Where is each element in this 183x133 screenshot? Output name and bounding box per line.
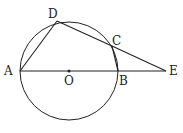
label-b: B: [119, 74, 128, 88]
segment-ad: [20, 21, 57, 71]
label-d: D: [48, 7, 58, 21]
segment-ce: [112, 46, 166, 71]
label-c: C: [112, 34, 121, 48]
label-o: O: [64, 74, 74, 88]
geometry-diagram: A B C D E O: [0, 0, 183, 133]
label-e: E: [169, 64, 178, 78]
center-dot-o: [68, 70, 71, 73]
segment-cb: [112, 46, 118, 71]
label-a: A: [3, 64, 13, 78]
